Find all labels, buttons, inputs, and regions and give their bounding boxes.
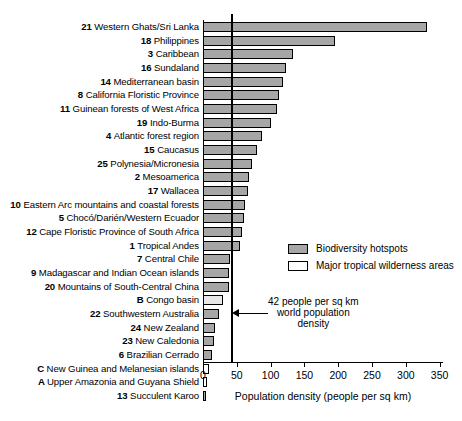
bar-row-name: Atlantic forest region xyxy=(114,130,199,141)
bar-row-rank: 22 xyxy=(90,308,103,319)
legend-item-hotspots: Biodiversity hotspots xyxy=(288,243,454,254)
x-axis-tick xyxy=(338,362,339,367)
bar-row-label: 17 Wallacea xyxy=(0,186,199,196)
bar-row-label: 19 Indo-Burma xyxy=(0,118,199,128)
bar-row-name: Tropical Andes xyxy=(137,240,199,251)
bar-row-label: 20 Mountains of South-Central China xyxy=(0,282,199,292)
bar xyxy=(203,63,286,73)
bar-row-name: Mountains of South-Central China xyxy=(58,281,199,292)
bar-row-rank: 16 xyxy=(141,62,154,73)
bar-row-rank: B xyxy=(137,294,146,305)
bar xyxy=(203,77,283,87)
bar-row-name: New Zealand xyxy=(144,322,199,333)
bar-row-name: Polynesia/Micronesia xyxy=(110,158,199,169)
bar-row-rank: 6 xyxy=(119,349,127,360)
bar-track xyxy=(203,75,283,89)
bar-row-name: Brazilian Cerrado xyxy=(127,349,199,360)
bar-row-rank: 18 xyxy=(141,35,154,46)
bar-row-label: 25 Polynesia/Micronesia xyxy=(0,159,199,169)
bar-row-name: Central Chile xyxy=(145,253,199,264)
annotation-arrow-icon xyxy=(232,309,239,317)
bar-track xyxy=(203,157,252,171)
legend: Biodiversity hotspots Major tropical wil… xyxy=(288,243,454,277)
bar-row-rank: A xyxy=(38,376,47,387)
bar-row-name: Wallacea xyxy=(161,185,199,196)
bar xyxy=(203,282,229,292)
legend-label-wilderness: Major tropical wilderness areas xyxy=(316,260,454,271)
bar-row-label: 4 Atlantic forest region xyxy=(0,131,199,141)
bar-track xyxy=(203,293,223,307)
bar xyxy=(203,227,242,237)
bar-row-name: Sundaland xyxy=(154,62,199,73)
bar-row-rank: 19 xyxy=(137,117,150,128)
x-axis-tick-label: 350 xyxy=(431,369,449,381)
bar-row-name: Caucasus xyxy=(157,144,199,155)
bar xyxy=(203,213,244,223)
bar-track xyxy=(203,61,286,75)
bar xyxy=(203,295,223,305)
bar-row-rank: 15 xyxy=(144,144,157,155)
bar xyxy=(203,186,248,196)
bar-row-label: 15 Caucasus xyxy=(0,145,199,155)
bar-row-label: 8 California Floristic Province xyxy=(0,90,199,100)
bar-track xyxy=(203,321,215,335)
bar-row-name: California Floristic Province xyxy=(86,89,199,100)
bar-row-rank: 5 xyxy=(59,212,67,223)
x-axis-tick xyxy=(304,362,305,367)
bar xyxy=(203,268,229,278)
bar-track xyxy=(203,334,214,348)
bar-row-label: 22 Southwestern Australia xyxy=(0,309,199,319)
legend-label-hotspots: Biodiversity hotspots xyxy=(316,243,408,254)
bar-row-label: 24 New Zealand xyxy=(0,323,199,333)
bar xyxy=(203,172,249,182)
bar-row-label: 13 Succulent Karoo xyxy=(0,391,199,401)
bar-track xyxy=(203,88,279,102)
bar-row-rank: 4 xyxy=(106,130,114,141)
bar-row-rank: 2 xyxy=(135,171,143,182)
bar-row-label: 11 Guinean forests of West Africa xyxy=(0,104,199,114)
bar xyxy=(203,200,245,210)
bar-row-label: 9 Madagascar and Indian Ocean islands xyxy=(0,268,199,278)
population-density-bar-chart: 21 Western Ghats/Sri Lanka18 Philippines… xyxy=(0,0,462,421)
bar-track xyxy=(203,225,242,239)
bar-row-rank: 3 xyxy=(148,48,156,59)
x-axis-tick xyxy=(440,362,441,367)
bar-row-label: 7 Central Chile xyxy=(0,254,199,264)
bar-row-label: A Upper Amazonia and Guyana Shield xyxy=(0,377,199,387)
bar-row-rank: 17 xyxy=(148,185,161,196)
bar xyxy=(203,159,252,169)
x-axis-tick-label: 250 xyxy=(363,369,381,381)
bar-row-rank: 21 xyxy=(81,21,94,32)
bar xyxy=(203,49,293,59)
world-density-annotation: 42 people per sq km world population den… xyxy=(268,296,359,329)
bar-track xyxy=(203,307,219,321)
bar-row-name: Caribbean xyxy=(156,48,199,59)
bar xyxy=(203,22,427,32)
annotation-line-3: density xyxy=(268,318,359,329)
bar-row-rank: 20 xyxy=(45,281,58,292)
bar-track xyxy=(203,34,335,48)
x-axis-tick xyxy=(237,362,238,367)
bar-row-name: Mediterranean basin xyxy=(113,76,199,87)
x-axis-tick-label: 100 xyxy=(262,369,280,381)
bar-row-rank: 10 xyxy=(10,199,23,210)
annotation-leader-line xyxy=(238,313,268,314)
bar-row-name: Indo-Burma xyxy=(150,117,199,128)
bar-row-name: Cape Floristic Province of South Africa xyxy=(39,226,199,237)
bar xyxy=(203,36,335,46)
annotation-line-1: 42 people per sq km xyxy=(268,296,359,307)
x-axis-label: Population density (people per sq km) xyxy=(203,390,443,402)
bar-row-rank: 11 xyxy=(60,103,73,114)
x-axis-tick xyxy=(271,362,272,367)
bar-row-label: 21 Western Ghats/Sri Lanka xyxy=(0,22,199,32)
x-axis-tick xyxy=(406,362,407,367)
x-axis-tick-label: 150 xyxy=(296,369,314,381)
bar-row-name: Eastern Arc mountains and coastal forest… xyxy=(23,199,199,210)
bar-row-label: 1 Tropical Andes xyxy=(0,241,199,251)
bar xyxy=(203,323,215,333)
bar-track xyxy=(203,239,240,253)
bar-row-label: 2 Mesoamerica xyxy=(0,172,199,182)
legend-item-wilderness: Major tropical wilderness areas xyxy=(288,260,454,271)
bar-row-label: C New Guinea and Melanesian islands xyxy=(0,364,199,374)
bar-row-rank: 9 xyxy=(31,267,39,278)
